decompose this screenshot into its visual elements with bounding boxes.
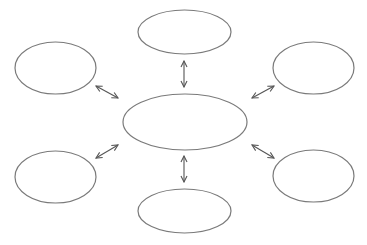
node-bottom[interactable] bbox=[138, 189, 231, 233]
node-top-ellipse[interactable] bbox=[138, 10, 231, 54]
concept-nodes bbox=[15, 10, 354, 233]
double-arrow-icon-top-right bbox=[252, 86, 274, 98]
node-bottom-ellipse[interactable] bbox=[138, 189, 231, 233]
node-top-right[interactable] bbox=[273, 42, 354, 94]
double-arrow-icon-bottom-right bbox=[252, 145, 274, 158]
node-bottom-right-ellipse[interactable] bbox=[273, 150, 354, 202]
node-top-left-ellipse[interactable] bbox=[15, 42, 96, 94]
node-top[interactable] bbox=[138, 10, 231, 54]
concept-map-canvas bbox=[0, 0, 367, 245]
node-bottom-left[interactable] bbox=[15, 151, 96, 203]
double-arrow-icon-top-left bbox=[96, 86, 118, 98]
node-top-right-ellipse[interactable] bbox=[273, 42, 354, 94]
double-arrow-icon-bottom-left bbox=[96, 145, 118, 158]
node-bottom-left-ellipse[interactable] bbox=[15, 151, 96, 203]
node-center[interactable] bbox=[123, 94, 247, 150]
node-top-left[interactable] bbox=[15, 42, 96, 94]
node-bottom-right[interactable] bbox=[273, 150, 354, 202]
node-center-ellipse[interactable] bbox=[123, 94, 247, 150]
